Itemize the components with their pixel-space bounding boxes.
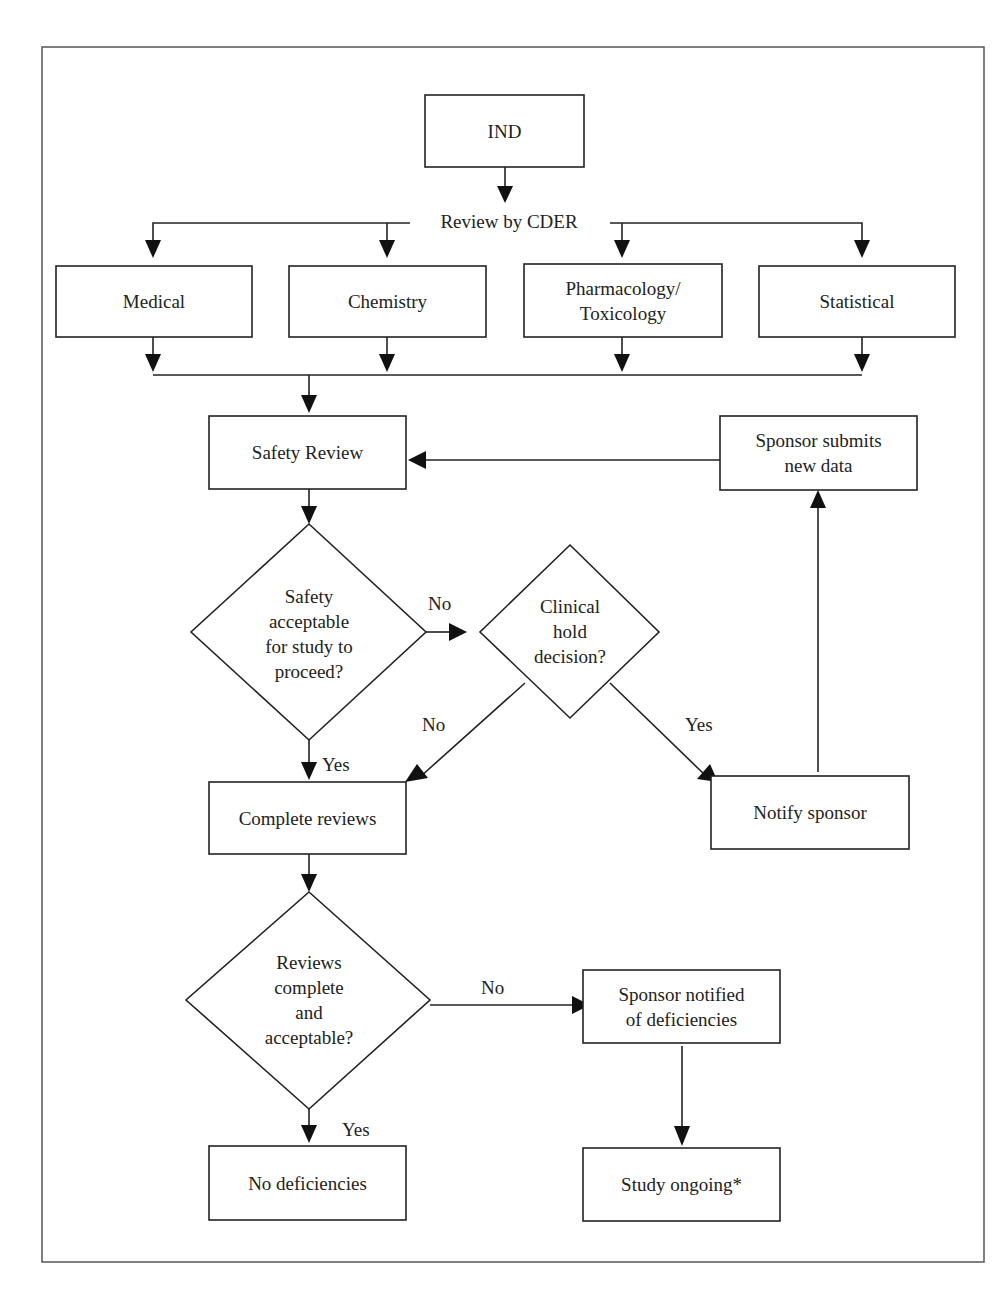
reviews-decision-line-4: acceptable? xyxy=(265,1025,354,1050)
arrow-head-icon xyxy=(301,395,317,413)
sponsor-notified-label: Sponsor notified of deficiencies xyxy=(583,970,780,1043)
safety-decision-line-1: Safety xyxy=(285,584,334,609)
arrow-head-icon xyxy=(614,354,630,372)
edge-label-safety-yes: Yes xyxy=(322,752,350,777)
arrow-head-icon xyxy=(301,874,317,892)
arrow-head-icon xyxy=(301,506,317,524)
arrow-head-icon xyxy=(379,240,395,258)
pharm-tox-label: Pharmacology/ Toxicology xyxy=(524,264,722,337)
medical-text: Medical xyxy=(123,289,185,314)
reviews-decision-label: Reviews complete and acceptable? xyxy=(219,948,399,1052)
arrow-head-icon xyxy=(301,1125,317,1143)
arrow-head-icon xyxy=(408,451,426,469)
arrow-head-icon xyxy=(301,762,317,780)
arrow-head-icon xyxy=(854,240,870,258)
arrow-head-icon xyxy=(810,490,826,508)
reviews-decision-line-2: complete xyxy=(274,975,344,1000)
notify-sponsor-text: Notify sponsor xyxy=(753,800,866,825)
safety-review-label: Safety Review xyxy=(209,416,406,489)
notify-sponsor-label: Notify sponsor xyxy=(711,776,909,849)
ind-text: IND xyxy=(488,119,522,144)
safety-decision-label: Safety acceptable for study to proceed? xyxy=(219,582,399,686)
clinical-hold-label: Clinical hold decision? xyxy=(500,592,640,670)
pharm-tox-line-2: Toxicology xyxy=(580,301,666,326)
sponsor-notified-line-2: of deficiencies xyxy=(626,1007,737,1032)
edge-label-hold-yes: Yes xyxy=(685,712,713,737)
chemistry-text: Chemistry xyxy=(348,289,427,314)
arrow-head-icon xyxy=(614,240,630,258)
sponsor-submits-line-1: Sponsor submits xyxy=(755,428,881,453)
chemistry-label: Chemistry xyxy=(289,266,486,337)
arrow-head-icon xyxy=(497,186,513,203)
arrow-head-icon xyxy=(379,354,395,372)
arrow-head-icon xyxy=(449,623,467,641)
study-ongoing-label: Study ongoing* xyxy=(583,1148,780,1221)
pharm-tox-line-1: Pharmacology/ xyxy=(565,276,680,301)
ind-label: IND xyxy=(425,95,584,167)
safety-decision-line-4: proceed? xyxy=(275,659,344,684)
edge-label-safety-no: No xyxy=(428,591,451,616)
arrow-head-icon xyxy=(854,354,870,372)
medical-label: Medical xyxy=(56,266,252,337)
clinical-hold-line-3: decision? xyxy=(534,644,606,669)
statistical-label: Statistical xyxy=(759,266,955,337)
sponsor-submits-line-2: new data xyxy=(784,453,852,478)
sponsor-submits-label: Sponsor submits new data xyxy=(720,416,917,490)
safety-review-text: Safety Review xyxy=(252,440,363,465)
safety-decision-line-2: acceptable xyxy=(269,609,349,634)
edge-label-reviews-yes: Yes xyxy=(342,1117,370,1142)
arrow-head-icon xyxy=(145,354,161,372)
reviews-decision-line-1: Reviews xyxy=(276,950,341,975)
arrow-head-icon xyxy=(674,1126,690,1146)
clinical-hold-line-2: hold xyxy=(553,619,587,644)
arrow-head-icon xyxy=(145,240,161,258)
safety-decision-line-3: for study to xyxy=(265,634,353,659)
no-deficiencies-label: No deficiencies xyxy=(209,1146,406,1220)
sponsor-notified-line-1: Sponsor notified xyxy=(618,982,744,1007)
reviews-decision-line-3: and xyxy=(295,1000,322,1025)
no-deficiencies-text: No deficiencies xyxy=(248,1171,367,1196)
clinical-hold-line-1: Clinical xyxy=(540,594,600,619)
edge-label-hold-no: No xyxy=(422,712,445,737)
complete-reviews-label: Complete reviews xyxy=(209,782,406,854)
complete-reviews-text: Complete reviews xyxy=(239,806,377,831)
edge-label-reviews-no: No xyxy=(481,975,504,1000)
statistical-text: Statistical xyxy=(820,289,895,314)
review-by-cder-label: Review by CDER xyxy=(418,209,600,234)
study-ongoing-text: Study ongoing* xyxy=(621,1172,742,1197)
